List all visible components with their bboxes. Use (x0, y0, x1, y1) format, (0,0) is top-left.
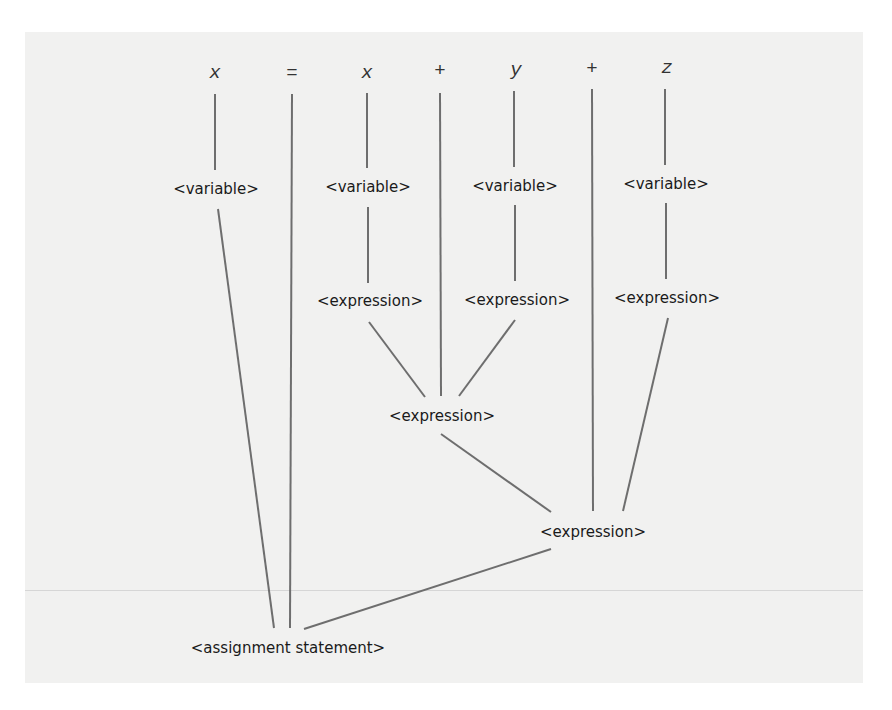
terminal-plus: + (434, 60, 445, 82)
node-variable: <variable> (623, 175, 709, 193)
node-variable: <variable> (472, 177, 558, 195)
terminal-equals: = (286, 62, 297, 84)
edge-plus2-to-xyz (592, 89, 593, 511)
node-variable: <variable> (173, 180, 259, 198)
node-expression: <expression> (317, 292, 423, 310)
node-expression: <expression> (464, 291, 570, 309)
tree-edges (215, 89, 668, 629)
edge-expression-to-root (304, 549, 551, 629)
node-expression: <expression> (540, 523, 646, 541)
edge-variable-to-root (218, 209, 274, 628)
node-expression: <expression> (389, 407, 495, 425)
terminal-symbols: x = x + y + z (208, 57, 672, 84)
edge-expression-xy-to-xyz (441, 434, 551, 512)
edge-expression-x-to-xy (369, 322, 425, 397)
terminal-x: x (208, 62, 221, 84)
terminal-y: y (509, 59, 522, 81)
node-variable: <variable> (325, 178, 411, 196)
edge-plus1-to-xy (440, 93, 441, 396)
node-assignment-statement: <assignment statement> (191, 639, 385, 657)
terminal-plus: + (586, 58, 597, 80)
terminal-x: x (360, 62, 373, 84)
terminal-z: z (661, 57, 672, 79)
edge-expression-y-to-xy (459, 320, 515, 396)
nonterminal-nodes: <variable> <variable> <variable> <variab… (173, 175, 720, 657)
node-expression: <expression> (614, 289, 720, 307)
parse-tree-diagram: x = x + y + z <variable> <variable> <var… (0, 0, 892, 710)
edge-equals-to-root (290, 94, 292, 628)
edge-expression-z-to-xyz (623, 318, 668, 511)
